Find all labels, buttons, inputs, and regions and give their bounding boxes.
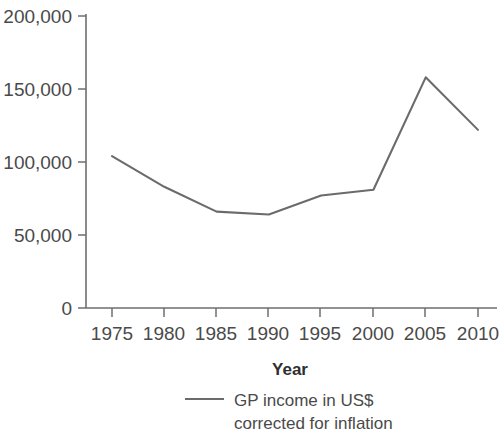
- x-tick-marks: [112, 308, 478, 317]
- legend-label-line-1: GP income in US$: [234, 391, 374, 410]
- x-tick-label-2005: 2005: [404, 323, 446, 344]
- y-tick-label-0: 0: [61, 298, 72, 319]
- x-tick-label-1985: 1985: [195, 323, 237, 344]
- y-tick-labels: 200,000 150,000 100,000 50,000 0: [3, 6, 72, 319]
- x-tick-label-1995: 1995: [299, 323, 341, 344]
- x-tick-label-1975: 1975: [91, 323, 133, 344]
- y-tick-label-50000: 50,000: [14, 225, 72, 246]
- y-tick-label-100000: 100,000: [3, 152, 72, 173]
- y-tick-marks: [78, 16, 86, 308]
- y-tick-label-150000: 150,000: [3, 79, 72, 100]
- x-tick-label-2010: 2010: [457, 323, 499, 344]
- x-tick-label-2000: 2000: [352, 323, 394, 344]
- data-series-gp-income: [112, 77, 478, 214]
- legend: GP income in US$ corrected for inflation: [185, 391, 393, 433]
- x-tick-labels: 1975 1980 1985 1990 1995 2000 2005 2010: [91, 323, 499, 344]
- axis-group: [86, 14, 497, 308]
- y-tick-label-200000: 200,000: [3, 6, 72, 27]
- line-chart: 200,000 150,000 100,000 50,000 0 1975 19…: [0, 0, 499, 440]
- x-axis-title: Year: [272, 360, 308, 379]
- legend-label-line-2: corrected for inflation: [234, 414, 393, 433]
- chart-figure: 200,000 150,000 100,000 50,000 0 1975 19…: [0, 0, 499, 440]
- x-tick-label-1990: 1990: [247, 323, 289, 344]
- x-tick-label-1980: 1980: [143, 323, 185, 344]
